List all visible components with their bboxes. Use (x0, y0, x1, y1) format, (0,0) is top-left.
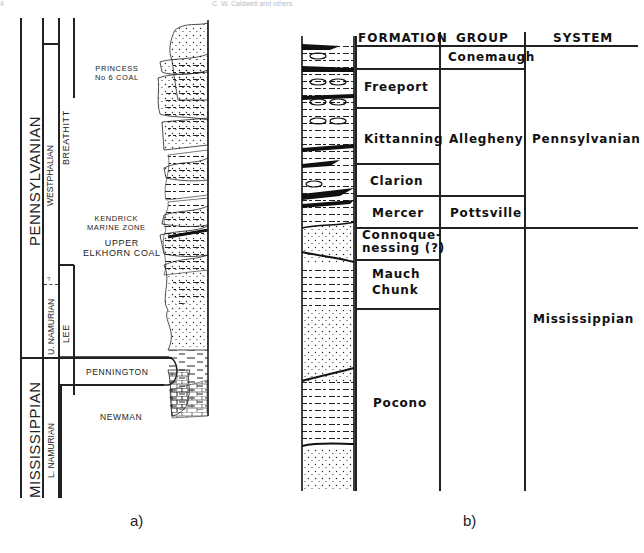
stage-label-westphalian: WESTPHALIAN (45, 145, 55, 206)
table-divider (524, 32, 526, 491)
formation-mercer: Mercer (372, 206, 424, 220)
annotation-princess-coal: PRINCESS No 6 COAL (95, 64, 139, 82)
lithologic-column-a (150, 20, 212, 430)
formation-mauch-chunk: Mauch Chunk (372, 266, 420, 298)
stage-label-u-namurian: U. NAMURIAN (46, 299, 56, 355)
lithologic-column-b (300, 36, 358, 491)
unit-label-pennington: PENNINGTON (86, 367, 149, 378)
formation-label-breathitt: BREATHITT (61, 110, 71, 165)
formation-pocono: Pocono (373, 396, 427, 410)
header-system: SYSTEM (553, 31, 613, 45)
column-line (60, 385, 62, 498)
boundary-line (58, 264, 74, 266)
page-number: 4 (0, 0, 4, 7)
table-divider (355, 36, 357, 491)
group-conemaugh: Conemaugh (448, 50, 535, 64)
formation-clarion: Clarion (370, 174, 423, 188)
running-header: C. W. Caldwell and others (212, 0, 293, 7)
unit-label-newman: NEWMAN (100, 412, 142, 423)
uncertain-tick (44, 284, 58, 285)
system-label-mississippian: MISSISSIPPIAN (26, 381, 43, 498)
row-divider (356, 163, 440, 165)
row-divider (356, 308, 440, 310)
formation-label-lee: LEE (61, 324, 71, 343)
row-divider (356, 107, 440, 109)
group-pottsville: Pottsville (450, 206, 522, 220)
column-line (20, 18, 22, 498)
group-allegheny: Allegheny (449, 132, 524, 146)
formation-kittanning: Kittanning (364, 132, 443, 146)
row-divider (356, 259, 440, 261)
panel-b-caption: b) (463, 512, 476, 529)
formation-freeport: Freeport (364, 80, 429, 94)
system-pennsylvanian: Pennsylvanian (532, 132, 641, 146)
formation-connoquenessing: Connoque- nessing (?) (362, 229, 445, 255)
stage-label-l-namurian: L. NAMURIAN (46, 423, 56, 478)
header-formation: FORMATION (358, 31, 448, 45)
panel-a-caption: a) (130, 512, 143, 529)
table-divider (439, 32, 441, 491)
boundary-line (42, 43, 58, 45)
system-label-pennsylvanian: PENNSYLVANIAN (26, 116, 43, 246)
header-underline (356, 45, 638, 47)
system-mississippian: Mississippian (533, 312, 634, 326)
header-group: GROUP (456, 31, 509, 45)
column-line (73, 18, 75, 98)
uncertain-mark: ? (47, 276, 50, 282)
row-divider (356, 195, 524, 197)
row-divider (356, 68, 524, 70)
annotation-kendrick-marine-zone: KENDRICK MARINE ZONE (87, 214, 146, 232)
